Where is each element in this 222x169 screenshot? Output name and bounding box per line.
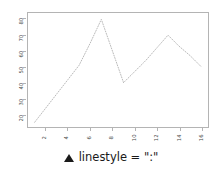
x-tick-mark — [112, 128, 113, 131]
chart-figure: 20304050607080 246810121416 linestyle = … — [0, 0, 222, 169]
series-line-linestyle-dotted — [35, 19, 202, 122]
x-tick-label: 2 — [42, 130, 47, 146]
y-axis-tick-labels: 20304050607080 — [0, 12, 26, 128]
x-tick-label: 6 — [87, 130, 92, 146]
x-tick-label: 16 — [200, 130, 205, 146]
x-tick-mark — [67, 128, 68, 131]
x-tick-mark — [90, 128, 91, 131]
x-tick-label: 8 — [110, 130, 115, 146]
x-tick-mark — [202, 128, 203, 131]
y-tick-label: 80 — [19, 18, 24, 40]
x-tick-label: 12 — [155, 130, 160, 146]
legend: linestyle = ":" — [0, 146, 222, 169]
x-tick-mark — [180, 128, 181, 131]
x-tick-mark — [45, 128, 46, 131]
triangle-up-icon — [64, 154, 74, 162]
x-tick-mark — [135, 128, 136, 131]
y-tick-mark — [23, 18, 26, 19]
x-tick-label: 4 — [65, 130, 70, 146]
legend-label: linestyle = ":" — [79, 152, 159, 164]
plot-area — [27, 12, 209, 128]
x-tick-label: 10 — [132, 130, 137, 146]
x-tick-mark — [157, 128, 158, 131]
line-series-svg — [28, 13, 208, 127]
x-tick-label: 14 — [177, 130, 182, 146]
